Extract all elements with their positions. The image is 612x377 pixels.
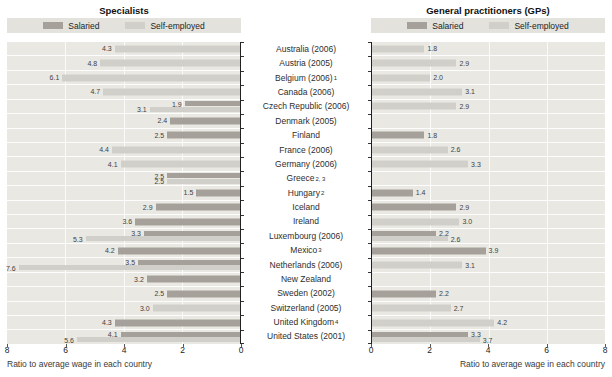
specialists-legend: Salaried Self-employed — [7, 18, 241, 33]
bar-self-employed: 4.1 — [121, 161, 240, 168]
bar-self-employed: 5.3 — [86, 236, 240, 241]
chart-row: 3.1 — [372, 84, 605, 98]
chart-row: 3.6 — [7, 214, 240, 228]
country-label: Austria (2005) — [241, 56, 371, 70]
chart-row: 4.3 — [7, 315, 240, 329]
axis-tick — [241, 243, 244, 244]
axis-tick — [241, 128, 244, 129]
axis-tick — [368, 286, 371, 287]
country-label: Mexico3 — [241, 243, 371, 257]
bar-salaried: 2.9 — [156, 204, 240, 211]
chart-row: 2.22.6 — [372, 228, 605, 242]
chart-row: 3.0 — [7, 301, 240, 315]
chart-row: 4.1 — [7, 156, 240, 170]
bar-value-label: 1.8 — [427, 45, 437, 52]
axis-tick — [241, 42, 244, 43]
country-name: Finland — [292, 131, 320, 140]
x-tick-label: 6 — [544, 346, 549, 355]
chart-row — [372, 171, 605, 185]
bar-self-employed: 7.6 — [19, 265, 240, 270]
legend-entry-salaried: Salaried — [43, 21, 99, 31]
country-label: Australia (2006) — [241, 42, 371, 56]
country-label: Czech Republic (2006) — [241, 100, 371, 114]
bar-self-employed: 3.0 — [153, 305, 240, 312]
bar-value-label: 3.1 — [465, 88, 475, 95]
specialists-chart: 4.34.86.14.71.93.12.42.54.44.12.52.51.52… — [7, 42, 241, 344]
specialists-title: Specialists — [7, 0, 241, 18]
bar-value-label: 5.6 — [64, 336, 74, 343]
bar-self-employed: 2.9 — [372, 60, 456, 67]
chart-row: 3.3 — [372, 156, 605, 170]
chart-row: 2.5 — [7, 286, 240, 300]
specialists-panel: Specialists Salaried Self-employed 4.34.… — [7, 0, 241, 377]
bar-value-label: 7.6 — [6, 264, 16, 271]
bar-self-employed: 3.1 — [372, 262, 462, 269]
country-name: Switzerland (2005) — [271, 304, 342, 313]
axis-tick — [241, 301, 244, 302]
bar-value-label: 4.2 — [497, 319, 507, 326]
country-name: Australia (2006) — [276, 45, 336, 54]
bar-self-employed: 2.6 — [372, 146, 448, 153]
country-label: New Zealand — [241, 272, 371, 286]
x-tick-label: 0 — [239, 346, 244, 355]
bar-value-label: 2.9 — [459, 103, 469, 110]
country-label: United States (2001) — [241, 330, 371, 344]
country-name: France (2006) — [279, 146, 332, 155]
country-label: Greece2, 3 — [241, 171, 371, 185]
axis-tick — [241, 114, 244, 115]
country-label: Finland — [241, 128, 371, 142]
country-name: Greece — [287, 174, 315, 183]
bar-self-employed: 2.9 — [372, 103, 456, 110]
country-name: United Kingdom — [274, 318, 334, 327]
bar-value-label: 2.5 — [154, 132, 164, 139]
bar-salaried: 3.3 — [144, 231, 240, 236]
chart-row: 3.57.6 — [7, 257, 240, 271]
country-name: Czech Republic (2006) — [263, 102, 349, 111]
salaried-swatch — [43, 22, 63, 29]
axis-tick — [368, 85, 371, 86]
bar-value-label: 3.9 — [489, 247, 499, 254]
chart-row: 4.7 — [7, 84, 240, 98]
country-name: Netherlands (2006) — [270, 261, 343, 270]
bar-value-label: 2.0 — [433, 74, 443, 81]
axis-tick — [241, 343, 244, 344]
chart-row: 2.9 — [372, 55, 605, 69]
axis-tick — [368, 56, 371, 57]
axis-tick — [241, 229, 244, 230]
gps-title: General practitioners (GPs) — [371, 0, 605, 18]
axis-tick — [241, 171, 244, 172]
gps-x-axis: 02468 — [371, 344, 605, 357]
axis-tick — [241, 215, 244, 216]
x-tick-label: 2 — [180, 346, 185, 355]
bar-salaried: 2.5 — [167, 290, 240, 297]
axis-tick — [241, 200, 244, 201]
axis-tick — [368, 243, 371, 244]
x-tick-label: 2 — [427, 346, 432, 355]
self-employed-swatch — [489, 22, 509, 29]
salaried-label: Salaried — [432, 21, 463, 31]
chart-row: 4.2 — [7, 243, 240, 257]
figure: Specialists Salaried Self-employed 4.34.… — [0, 0, 612, 377]
chart-row: 4.15.6 — [7, 329, 240, 343]
x-tick-label: 8 — [5, 346, 10, 355]
chart-row: 3.33.7 — [372, 329, 605, 343]
country-name: Germany (2006) — [275, 160, 337, 169]
axis-tick — [241, 315, 244, 316]
chart-row: 4.2 — [372, 315, 605, 329]
axis-tick — [368, 200, 371, 201]
bar-value-label: 3.1 — [465, 262, 475, 269]
bar-value-label: 1.8 — [427, 132, 437, 139]
bar-self-employed: 5.6 — [77, 337, 240, 342]
country-name: Belgium (2006) — [275, 74, 333, 83]
chart-row: 2.4 — [7, 113, 240, 127]
bar-self-employed: 1.8 — [372, 45, 424, 52]
bar-salaried: 3.2 — [147, 276, 240, 283]
axis-tick — [241, 157, 244, 158]
axis-tick — [241, 100, 244, 101]
axis-tick — [368, 258, 371, 259]
bar-value-label: 5.3 — [73, 235, 83, 242]
bar-value-label: 4.7 — [90, 88, 100, 95]
country-label: Luxembourg (2006) — [241, 229, 371, 243]
bar-value-label: 2.9 — [459, 204, 469, 211]
country-name: Luxembourg (2006) — [269, 232, 343, 241]
